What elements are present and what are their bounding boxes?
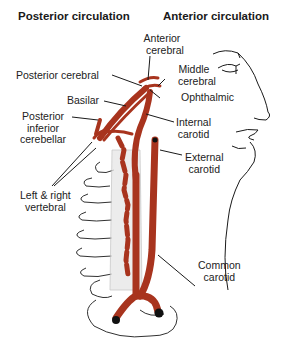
label-line: External: [185, 152, 224, 164]
label-basilar: Basilar: [67, 95, 99, 107]
label-line: Anterior: [140, 33, 184, 45]
label-posterior-inferior-cerebellar: Posterior inferior cerebellar: [20, 111, 66, 146]
label-line: Left & right: [20, 190, 71, 202]
label-ophthalmic: Ophthalmic: [181, 92, 234, 104]
label-common-carotid: Common carotid: [198, 260, 241, 283]
label-anterior-cerebral: Anterior cerebral: [140, 33, 184, 56]
label-line: cerebral: [172, 76, 216, 88]
label-line: carotid: [176, 129, 211, 141]
label-line: vertebral: [20, 202, 71, 214]
label-posterior-cerebral: Posterior cerebral: [16, 70, 99, 82]
label-left-right-vertebral: Left & right vertebral: [20, 190, 71, 213]
external-carotid-end: [153, 138, 158, 143]
anterior-circulation-header: Anterior circulation: [163, 10, 269, 22]
label-line: Internal: [176, 117, 211, 129]
label-internal-carotid: Internal carotid: [176, 117, 211, 140]
label-middle-cerebral: Middle cerebral: [172, 64, 216, 87]
middle-cerebral-vessel: [144, 85, 160, 88]
label-line: Middle: [172, 64, 216, 76]
label-line: Posterior: [20, 111, 66, 123]
label-line: Common: [198, 260, 241, 272]
label-line: carotid: [198, 272, 241, 284]
label-line: cerebral: [140, 45, 184, 57]
posterior-circulation-header: Posterior circulation: [18, 10, 130, 22]
anterior-cerebral-vessel: [140, 78, 158, 83]
label-external-carotid: External carotid: [185, 152, 224, 175]
carotid-end-left: [112, 316, 120, 324]
carotid-end-right: [155, 309, 164, 318]
label-line: cerebellar: [20, 134, 66, 146]
label-line: carotid: [185, 164, 224, 176]
external-carotid-vessel: [140, 140, 155, 296]
